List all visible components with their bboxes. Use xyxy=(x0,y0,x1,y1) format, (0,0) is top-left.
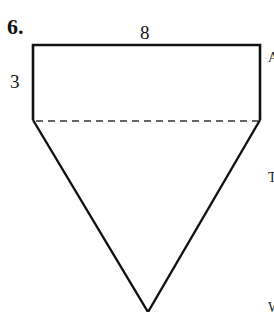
cropped-text-fragment: A xyxy=(268,50,274,62)
height-label: 3 xyxy=(10,72,20,91)
width-label: 8 xyxy=(140,23,150,42)
cropped-text-fragment: W xyxy=(268,300,274,312)
problem-number: 6. xyxy=(7,16,24,38)
triangle-outline xyxy=(33,120,260,312)
composite-figure xyxy=(0,0,274,312)
cropped-text-fragment: T xyxy=(268,170,274,182)
rectangle-outline xyxy=(33,45,260,120)
